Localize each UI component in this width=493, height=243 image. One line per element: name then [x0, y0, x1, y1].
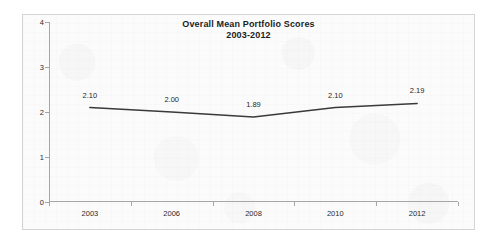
x-axis-tick-label: 2003 [82, 209, 99, 218]
y-axis-tick-label: 2 [40, 108, 44, 117]
x-axis-tick-label: 2010 [327, 209, 344, 218]
y-axis-tick-label: 0 [40, 198, 44, 207]
data-point-label: 2.10 [328, 91, 343, 100]
x-axis-tick [49, 202, 50, 206]
data-point-label: 2.10 [83, 91, 98, 100]
x-axis-tick-label: 2008 [245, 209, 262, 218]
x-axis-tick [376, 202, 377, 206]
x-axis-tick [131, 202, 132, 206]
chart-frame: Overall Mean Portfolio Scores 2003-2012 … [22, 14, 475, 230]
x-axis-tick [213, 202, 214, 206]
y-axis-tick-label: 4 [40, 18, 44, 27]
x-axis-tick [294, 202, 295, 206]
plot-area: 01234 20032006200820102012 2.102.001.892… [49, 22, 458, 202]
data-point-label: 2.00 [164, 95, 179, 104]
x-axis-tick [458, 202, 459, 206]
series-line-chart [49, 22, 458, 202]
data-point-label: 2.19 [410, 86, 425, 95]
y-axis-tick-label: 1 [40, 153, 44, 162]
x-axis-tick-label: 2006 [163, 209, 180, 218]
x-axis-tick-label: 2012 [409, 209, 426, 218]
data-point-label: 1.89 [246, 100, 261, 109]
y-axis-tick-label: 3 [40, 63, 44, 72]
